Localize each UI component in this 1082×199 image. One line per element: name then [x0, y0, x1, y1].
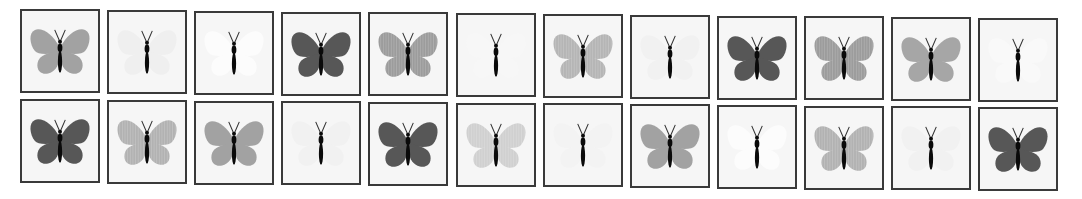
antenna — [490, 34, 501, 45]
upper-left-wing — [292, 122, 321, 147]
antenna — [1013, 39, 1024, 50]
butterfly-tile[interactable] — [717, 105, 797, 189]
lower-left-wing — [560, 145, 582, 168]
upper-left-wing — [118, 30, 147, 55]
butterfly-tile[interactable] — [194, 11, 274, 95]
butterfly-tile[interactable] — [630, 104, 710, 188]
butterfly-tile[interactable] — [717, 16, 797, 100]
upper-right-wing — [496, 123, 525, 148]
butterfly-tile[interactable] — [368, 12, 448, 96]
butterfly-head — [319, 42, 323, 46]
lower-right-wing — [845, 58, 867, 81]
upper-right-wing — [61, 29, 90, 54]
antenna — [229, 121, 240, 132]
butterfly-tile[interactable] — [630, 15, 710, 99]
butterfly-tile[interactable] — [543, 103, 623, 187]
butterfly-tile[interactable] — [891, 17, 971, 101]
lower-right-wing — [61, 141, 83, 164]
butterfly-tile[interactable] — [804, 106, 884, 190]
lower-left-wing — [37, 51, 59, 74]
lower-right-wing — [583, 56, 605, 79]
lower-right-wing — [932, 59, 954, 82]
upper-left-wing — [640, 124, 669, 149]
butterfly-icon — [637, 113, 703, 179]
upper-left-wing — [640, 35, 669, 60]
butterfly-grid — [0, 0, 1082, 199]
butterfly-abdomen — [232, 142, 236, 164]
butterfly-head — [406, 133, 410, 137]
butterfly-head — [755, 136, 759, 140]
butterfly-icon — [550, 23, 616, 89]
butterfly-icon — [724, 114, 790, 180]
antenna — [403, 33, 414, 44]
butterfly-abdomen — [319, 53, 323, 75]
antenna — [926, 127, 937, 138]
upper-left-wing — [901, 38, 930, 63]
butterfly-tile[interactable] — [281, 12, 361, 96]
lower-right-wing — [322, 54, 344, 77]
butterfly-tile[interactable] — [368, 102, 448, 186]
upper-left-wing — [292, 32, 321, 57]
butterfly-head — [494, 44, 498, 48]
upper-left-wing — [30, 119, 59, 144]
lower-left-wing — [386, 54, 408, 77]
lower-left-wing — [124, 52, 146, 75]
butterfly-icon — [898, 115, 964, 181]
butterfly-tile[interactable] — [194, 101, 274, 185]
butterfly-tile[interactable] — [107, 100, 187, 184]
butterfly-tile[interactable] — [543, 14, 623, 98]
upper-right-wing — [932, 38, 961, 63]
lower-right-wing — [583, 145, 605, 168]
upper-left-wing — [466, 123, 495, 148]
butterfly-icon — [288, 21, 354, 87]
butterfly-tile[interactable] — [20, 99, 100, 183]
butterfly-icon — [985, 27, 1051, 93]
butterfly-icon — [27, 108, 93, 174]
lower-right-wing — [148, 52, 170, 75]
lower-right-wing — [322, 143, 344, 166]
upper-right-wing — [1019, 127, 1048, 152]
butterfly-tile[interactable] — [891, 106, 971, 190]
lower-right-wing — [932, 148, 954, 171]
butterfly-tile[interactable] — [107, 10, 187, 94]
butterfly-icon — [898, 26, 964, 92]
antenna — [577, 124, 588, 135]
upper-left-wing — [466, 33, 495, 58]
butterfly-tile[interactable] — [978, 18, 1058, 102]
butterfly-tile[interactable] — [20, 9, 100, 93]
butterfly-abdomen — [145, 141, 149, 163]
upper-left-wing — [814, 37, 843, 62]
upper-right-wing — [932, 127, 961, 152]
upper-right-wing — [845, 126, 874, 151]
lower-left-wing — [821, 58, 843, 81]
antenna — [926, 38, 937, 49]
antenna — [577, 35, 588, 46]
butterfly-head — [842, 136, 846, 140]
butterfly-tile[interactable] — [456, 13, 536, 97]
butterfly-abdomen — [668, 145, 672, 167]
butterfly-abdomen — [406, 143, 410, 165]
lower-left-wing — [647, 57, 669, 80]
butterfly-head — [581, 134, 585, 138]
butterfly-tile[interactable] — [978, 107, 1058, 191]
butterfly-abdomen — [580, 145, 584, 167]
butterfly-abdomen — [493, 54, 497, 76]
lower-left-wing — [299, 143, 321, 166]
butterfly-head — [1016, 138, 1020, 142]
butterfly-abdomen — [406, 54, 410, 76]
butterfly-tile[interactable] — [456, 103, 536, 187]
butterfly-head — [494, 133, 498, 137]
butterfly-icon — [985, 116, 1051, 182]
butterfly-tile[interactable] — [281, 101, 361, 185]
butterfly-icon — [811, 25, 877, 91]
lower-left-wing — [37, 141, 59, 164]
butterfly-abdomen — [755, 146, 759, 168]
butterfly-tile[interactable] — [804, 16, 884, 100]
antenna — [752, 126, 763, 137]
butterfly-abdomen — [58, 140, 62, 162]
upper-left-wing — [727, 125, 756, 150]
butterfly-head — [929, 48, 933, 52]
lower-left-wing — [212, 53, 234, 76]
antenna — [490, 123, 501, 134]
butterfly-icon — [114, 109, 180, 175]
